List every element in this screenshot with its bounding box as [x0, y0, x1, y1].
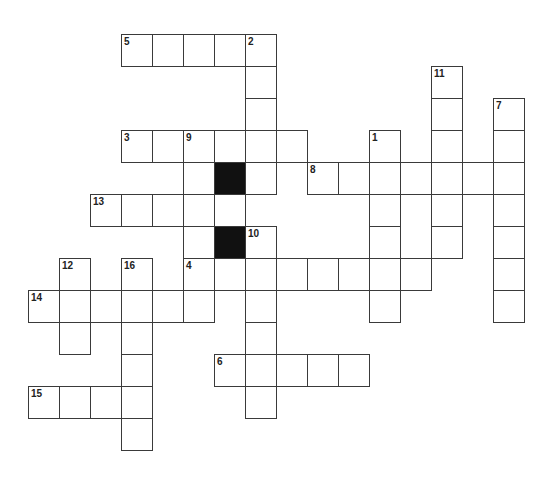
crossword-cell[interactable] [121, 386, 153, 419]
crossword-cell[interactable] [214, 34, 246, 67]
crossword-cell[interactable]: 12 [59, 258, 91, 291]
crossword-cell[interactable] [245, 386, 277, 419]
clue-number: 4 [186, 260, 192, 271]
crossword-cell[interactable] [183, 162, 215, 195]
crossword-cell[interactable] [121, 290, 153, 323]
crossword-cell[interactable]: 6 [214, 354, 246, 387]
crossword-cell[interactable] [338, 162, 370, 195]
crossword-cell[interactable] [369, 194, 401, 227]
crossword-cell[interactable]: 9 [183, 130, 215, 163]
crossword-cell[interactable] [307, 354, 339, 387]
crossword-cell[interactable]: 4 [183, 258, 215, 291]
crossword-cell[interactable] [245, 66, 277, 99]
crossword-cell[interactable] [59, 322, 91, 355]
clue-number: 7 [496, 100, 502, 111]
crossword-cell[interactable] [493, 130, 525, 163]
crossword-cell[interactable] [462, 162, 494, 195]
crossword-cell[interactable] [493, 290, 525, 323]
clue-number: 11 [434, 68, 445, 79]
clue-number: 2 [248, 36, 254, 47]
crossword-cell[interactable] [307, 258, 339, 291]
crossword-cell[interactable] [152, 130, 184, 163]
blocked-cell [214, 226, 246, 259]
crossword-cell[interactable]: 16 [121, 258, 153, 291]
crossword-cell[interactable] [152, 34, 184, 67]
crossword-cell[interactable] [214, 130, 246, 163]
crossword-cell[interactable] [400, 258, 432, 291]
crossword-cell[interactable] [276, 130, 308, 163]
crossword-cell[interactable]: 7 [493, 98, 525, 131]
crossword-cell[interactable]: 2 [245, 34, 277, 67]
crossword-cell[interactable] [245, 354, 277, 387]
crossword-cell[interactable] [431, 194, 463, 227]
clue-number: 3 [124, 132, 130, 143]
clue-number: 13 [93, 196, 104, 207]
clue-number: 6 [217, 356, 223, 367]
crossword-cell[interactable] [245, 130, 277, 163]
crossword-cell[interactable]: 13 [90, 194, 122, 227]
clue-number: 5 [124, 36, 130, 47]
crossword-cell[interactable] [121, 418, 153, 451]
clue-number: 12 [62, 260, 73, 271]
crossword-cell[interactable] [245, 98, 277, 131]
crossword-cell[interactable] [183, 194, 215, 227]
clue-number: 16 [124, 260, 135, 271]
crossword-cell[interactable] [369, 226, 401, 259]
crossword-cell[interactable] [183, 34, 215, 67]
crossword-cell[interactable]: 11 [431, 66, 463, 99]
crossword-cell[interactable] [493, 162, 525, 195]
clue-number: 15 [31, 388, 42, 399]
crossword-cell[interactable] [431, 130, 463, 163]
crossword-cell[interactable] [338, 354, 370, 387]
crossword-cell[interactable] [431, 162, 463, 195]
crossword-cell[interactable] [338, 258, 370, 291]
crossword-cell[interactable] [121, 354, 153, 387]
clue-number: 1 [372, 132, 378, 143]
crossword-cell[interactable] [90, 290, 122, 323]
crossword-cell[interactable] [121, 194, 153, 227]
blocked-cell [214, 162, 246, 195]
crossword-cell[interactable] [152, 290, 184, 323]
crossword-cell[interactable] [245, 258, 277, 291]
crossword-cell[interactable] [245, 290, 277, 323]
crossword-cell[interactable] [431, 226, 463, 259]
crossword-grid: 52117394181310121614615 [0, 0, 554, 479]
crossword-cell[interactable] [90, 386, 122, 419]
crossword-cell[interactable] [245, 162, 277, 195]
crossword-cell[interactable] [214, 194, 246, 227]
crossword-cell[interactable] [369, 258, 401, 291]
crossword-cell[interactable] [493, 258, 525, 291]
crossword-cell[interactable] [369, 162, 401, 195]
crossword-cell[interactable] [493, 194, 525, 227]
crossword-cell[interactable]: 1 [369, 130, 401, 163]
clue-number: 14 [31, 292, 42, 303]
crossword-cell[interactable] [493, 226, 525, 259]
crossword-cell[interactable] [183, 290, 215, 323]
crossword-cell[interactable]: 8 [307, 162, 339, 195]
clue-number: 8 [310, 164, 316, 175]
crossword-cell[interactable] [59, 290, 91, 323]
crossword-cell[interactable]: 15 [28, 386, 60, 419]
crossword-cell[interactable]: 5 [121, 34, 153, 67]
crossword-cell[interactable] [276, 258, 308, 291]
crossword-cell[interactable]: 14 [28, 290, 60, 323]
crossword-cell[interactable] [214, 258, 246, 291]
crossword-cell[interactable] [183, 226, 215, 259]
crossword-cell[interactable]: 10 [245, 226, 277, 259]
crossword-cell[interactable] [369, 290, 401, 323]
clue-number: 9 [186, 132, 192, 143]
crossword-cell[interactable] [152, 194, 184, 227]
crossword-cell[interactable]: 3 [121, 130, 153, 163]
crossword-cell[interactable] [400, 162, 432, 195]
crossword-cell[interactable] [431, 98, 463, 131]
crossword-cell[interactable] [121, 322, 153, 355]
clue-number: 10 [248, 228, 259, 239]
crossword-cell[interactable] [59, 386, 91, 419]
crossword-cell[interactable] [276, 354, 308, 387]
crossword-cell[interactable] [245, 322, 277, 355]
